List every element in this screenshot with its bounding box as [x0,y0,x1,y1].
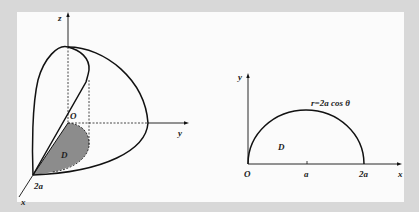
region-d-shaded [33,123,89,175]
2d-region-d-label: D [277,142,285,152]
surface-outer-right-curve [68,47,148,123]
tick-label-a: a [304,169,309,179]
tick-label-2a: 2a [358,169,369,179]
x-axis-label: x [20,197,26,207]
z-axis-arrow-icon [66,12,69,17]
intercept-2a-label: 2a [33,181,44,191]
origin-label: O [70,111,77,121]
figure-2d: y x O a 2a D r=2a cos θ [237,72,403,179]
figure-3d: z y x O D 2a [19,12,189,207]
2d-y-axis-arrow-icon [246,73,249,78]
2d-y-axis-label: y [237,72,243,82]
y-axis-label: y [177,128,183,138]
region-d-label: D [60,150,68,160]
diagram-canvas: z y x O D 2a y x O a 2a D r=2a cos θ [0,0,419,212]
2d-origin-label: O [244,169,251,179]
2d-x-axis-arrow-icon [397,162,402,165]
z-axis-label: z [57,13,62,23]
curve-equation-label: r=2a cos θ [311,98,350,108]
2d-x-axis-label: x [397,169,403,179]
x-axis [19,175,33,197]
y-axis-arrow-icon [184,121,189,124]
semicircle-curve [248,110,364,164]
